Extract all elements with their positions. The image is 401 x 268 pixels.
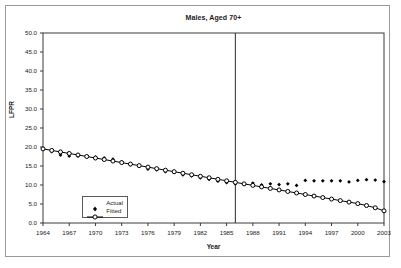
- x-tick-label: 1973: [108, 229, 136, 236]
- y-tick-label: 35.0: [11, 86, 37, 93]
- x-tick-label: 1967: [55, 229, 83, 236]
- y-tick-label: 30.0: [11, 105, 37, 112]
- x-tick-label: 1991: [265, 229, 293, 236]
- legend-label-actual: Actual: [106, 200, 123, 206]
- y-tick-label: 50.0: [11, 29, 37, 36]
- x-tick-label: 1976: [134, 229, 162, 236]
- x-tick-label: 1994: [291, 229, 319, 236]
- x-tick-label: 1988: [239, 229, 267, 236]
- legend-label-fitted: Fitted: [106, 208, 121, 214]
- plot-area: [0, 0, 401, 268]
- x-tick-label: 1985: [213, 229, 241, 236]
- y-tick-label: 40.0: [11, 67, 37, 74]
- y-tick-label: 10.0: [11, 181, 37, 188]
- legend-item-actual: Actual: [86, 199, 123, 207]
- x-tick-label: 2000: [344, 229, 372, 236]
- y-tick-label: 45.0: [11, 48, 37, 55]
- legend-item-fitted: Fitted: [86, 207, 123, 215]
- y-tick-label: 25.0: [11, 124, 37, 131]
- x-tick-label: 1964: [29, 229, 57, 236]
- filled-diamond-icon: [86, 199, 104, 207]
- x-tick-label: 2003: [370, 229, 398, 236]
- x-tick-label: 1970: [81, 229, 109, 236]
- figure-canvas: Males, Aged 70+ LFPR Year 0.05.010.015.0…: [0, 0, 401, 268]
- x-tick-label: 1997: [318, 229, 346, 236]
- line-open-circle-icon: [86, 207, 104, 215]
- y-tick-label: 15.0: [11, 162, 37, 169]
- y-tick-label: 20.0: [11, 143, 37, 150]
- x-tick-label: 1982: [186, 229, 214, 236]
- chart-legend: Actual Fitted: [82, 196, 128, 218]
- y-tick-label: 0.0: [11, 219, 37, 226]
- y-tick-label: 5.0: [11, 200, 37, 207]
- series-actual: [41, 147, 386, 187]
- x-tick-label: 1979: [160, 229, 188, 236]
